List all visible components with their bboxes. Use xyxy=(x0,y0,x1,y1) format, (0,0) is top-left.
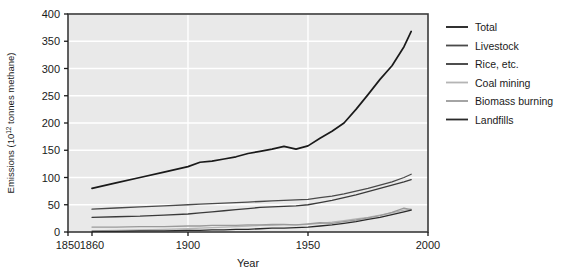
x-tick-label: 1950 xyxy=(296,239,320,251)
chart-canvas: 0501001502002503003504001850186019001950… xyxy=(0,0,562,272)
legend-label-coal-mining[interactable]: Coal mining xyxy=(475,77,531,89)
y-tick-label: 150 xyxy=(42,144,60,156)
emissions-line-chart: 0501001502002503003504001850186019001950… xyxy=(0,0,562,272)
legend-label-landfills[interactable]: Landfills xyxy=(475,114,514,126)
legend-label-livestock[interactable]: Livestock xyxy=(475,40,520,52)
y-tick-label: 100 xyxy=(42,172,60,184)
y-tick-label: 300 xyxy=(42,63,60,75)
y-tick-label: 250 xyxy=(42,90,60,102)
x-tick-label: 1900 xyxy=(176,239,200,251)
legend-label-biomass-burning[interactable]: Biomass burning xyxy=(475,95,553,107)
y-axis-title: Emissions (1012 tonnes methane) xyxy=(5,53,17,194)
legend-label-rice-etc[interactable]: Rice, etc. xyxy=(475,58,519,70)
x-tick-label: 2000 xyxy=(416,239,440,251)
y-tick-label: 0 xyxy=(54,226,60,238)
y-tick-label: 350 xyxy=(42,35,60,47)
y-tick-label: 200 xyxy=(42,117,60,129)
x-tick-label: 1850 xyxy=(56,239,80,251)
x-axis-title: Year xyxy=(237,257,260,269)
y-tick-label: 50 xyxy=(48,199,60,211)
y-tick-label: 400 xyxy=(42,8,60,20)
x-tick-label: 1860 xyxy=(80,239,104,251)
legend-label-total[interactable]: Total xyxy=(475,21,497,33)
